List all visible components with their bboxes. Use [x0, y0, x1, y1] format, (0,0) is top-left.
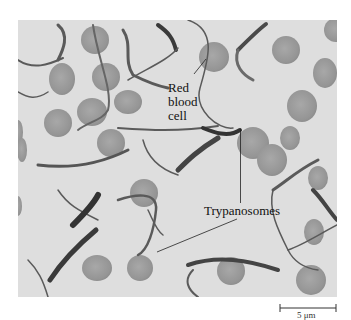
micrograph-photo	[18, 20, 337, 297]
rbc-label-line-3: cell	[168, 109, 218, 123]
micrograph-image	[18, 20, 337, 297]
rbc-label-line-1: Red	[168, 81, 218, 95]
trypanosomes-label: Trypanosomes	[204, 204, 280, 218]
rbc-label-line-2: blood	[168, 95, 218, 109]
scale-bar-label: 5 μm	[297, 310, 316, 320]
red-blood-cell-label: Red blood cell	[168, 81, 218, 123]
